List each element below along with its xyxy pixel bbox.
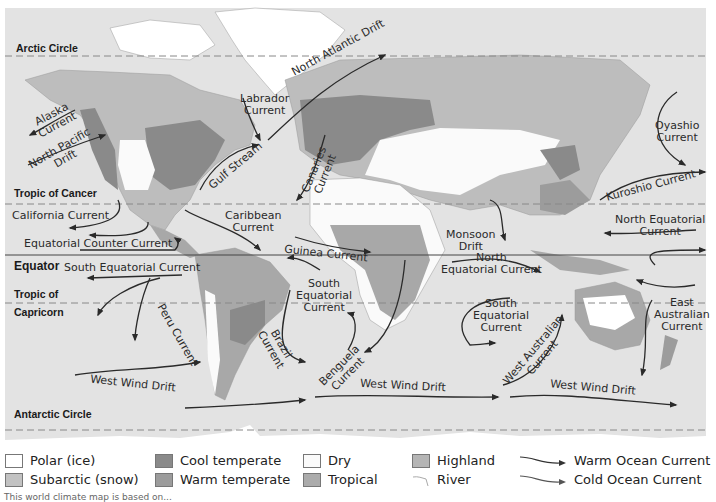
east-australian-current-label: EastAustralianCurrent <box>654 297 710 333</box>
polar-swatch <box>5 454 23 468</box>
highland-swatch <box>412 454 430 468</box>
legend-warm-current: Warm Ocean Current <box>518 453 710 468</box>
tropic-of-capricorn-label-2: Capricorn <box>14 306 64 319</box>
north-equatorial-pacific-label: North EquatorialCurrent <box>615 214 705 238</box>
legend-cool-temperate: Cool temperate <box>155 453 281 468</box>
legend-river: River <box>412 472 471 487</box>
south-equatorial-atlantic-label: SouthEquatorialCurrent <box>296 278 352 314</box>
antarctic-circle-label: Antarctic Circle <box>14 408 92 421</box>
south-equatorial-indian-label: SouthEquatorialCurrent <box>473 298 529 334</box>
legend: Polar (ice) Subarctic (snow) Cool temper… <box>0 450 716 498</box>
oyashio-current-label: OyashioCurrent <box>655 120 699 144</box>
legend-warm-temperate: Warm temperate <box>155 472 290 487</box>
world-climate-map: Arctic Circle Tropic of Cancer Equator T… <box>0 0 716 450</box>
labrador-current-label: LabradorCurrent <box>240 93 289 117</box>
north-equatorial-indian-label: NorthEquatorial Current <box>441 252 542 276</box>
tropical-swatch <box>303 473 321 487</box>
monsoon-drift-label: MonsoonDrift <box>446 229 495 253</box>
legend-polar: Polar (ice) <box>5 453 95 468</box>
cold-current-arrow-icon <box>518 473 568 487</box>
tropic-of-capricorn-label-1: Tropic of <box>14 288 58 301</box>
south-equatorial-pacific-label: South Equatorial Current <box>64 262 200 274</box>
california-current-label: California Current <box>12 210 109 222</box>
equator-label: Equator <box>14 260 59 273</box>
legend-dry: Dry <box>303 453 351 468</box>
cool-temperate-swatch <box>155 454 173 468</box>
legend-cold-current: Cold Ocean Current <box>518 472 702 487</box>
warm-current-arrow-icon <box>518 454 568 468</box>
legend-tropical: Tropical <box>303 472 378 487</box>
equatorial-counter-current-label: Equatorial Counter Current <box>24 238 172 250</box>
river-icon <box>412 473 430 487</box>
caribbean-current-label: CaribbeanCurrent <box>225 210 281 234</box>
warm-temperate-swatch <box>155 473 173 487</box>
subarctic-swatch <box>5 473 23 487</box>
legend-highland: Highland <box>412 453 495 468</box>
footnote: This world climate map is based on... <box>4 492 172 502</box>
dry-swatch <box>303 454 321 468</box>
legend-subarctic: Subarctic (snow) <box>5 472 139 487</box>
arctic-circle-label: Arctic Circle <box>16 42 78 55</box>
tropic-of-cancer-label: Tropic of Cancer <box>14 187 97 200</box>
